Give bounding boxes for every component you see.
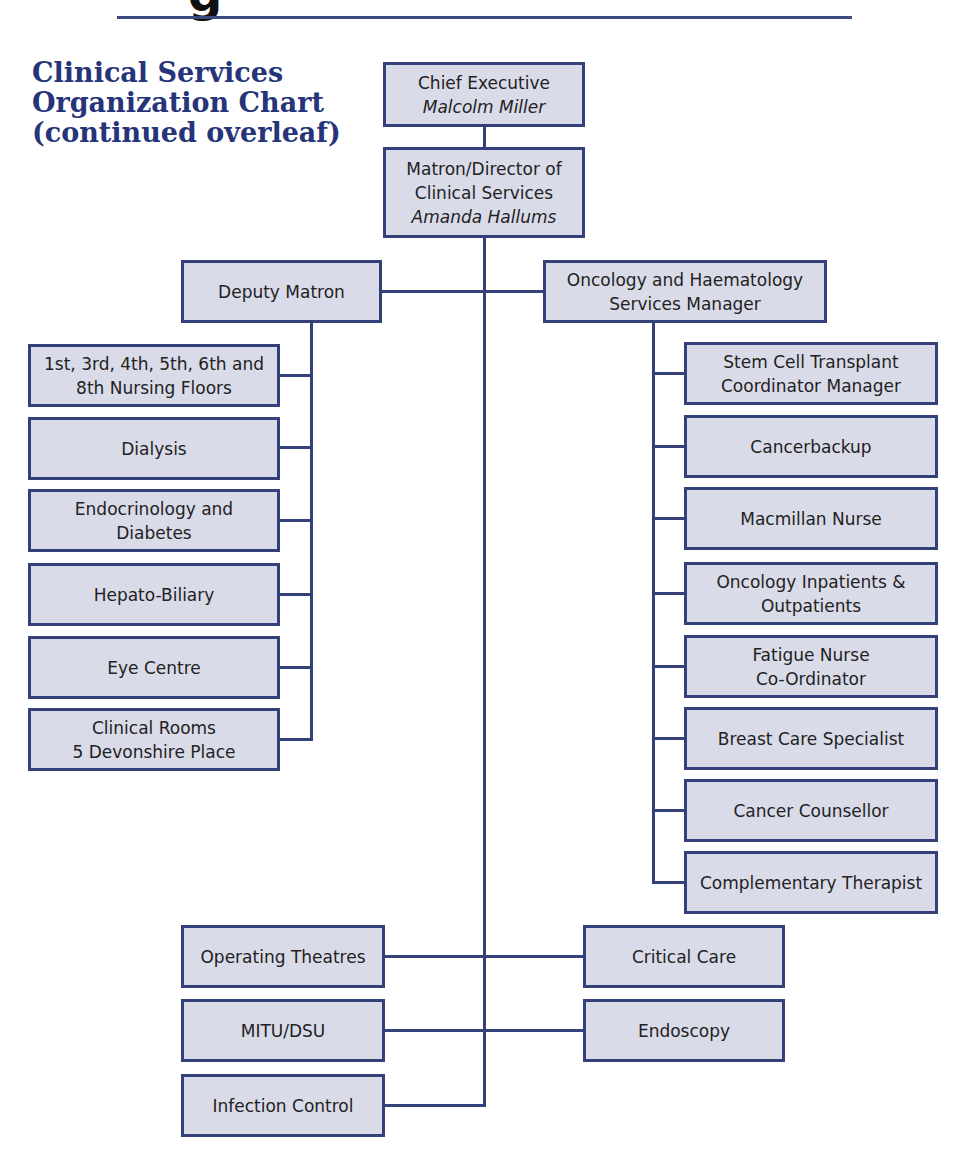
node-label: 1st, 3rd, 4th, 5th, 6th and: [44, 352, 264, 376]
node-oncology-patients: Oncology Inpatients & Outpatients: [684, 562, 938, 625]
header-rule: [117, 16, 852, 19]
connector-oncology-spine: [652, 322, 655, 884]
connector-deputy-spine: [310, 322, 313, 741]
node-role: Chief Executive: [418, 71, 550, 95]
connector-oncology-branch: [652, 881, 687, 884]
node-label: Breast Care Specialist: [718, 727, 904, 751]
node-complementary-therapist: Complementary Therapist: [684, 851, 938, 914]
connector-theatres-critical: [383, 955, 586, 958]
connector-deputy-branch: [278, 446, 313, 449]
node-label: Macmillan Nurse: [740, 507, 882, 531]
connector-oncology-branch: [652, 445, 687, 448]
connector-oncology-branch: [652, 665, 687, 668]
node-label: Diabetes: [116, 521, 191, 545]
node-macmillan: Macmillan Nurse: [684, 487, 938, 550]
node-label: Hepato-Biliary: [94, 583, 215, 607]
connector-deputy-branch: [278, 374, 313, 377]
node-matron: Matron/Director of Clinical Services Ama…: [383, 147, 585, 238]
node-label: Fatigue Nurse: [752, 643, 869, 667]
node-person: Amanda Hallums: [412, 205, 557, 229]
node-label: Deputy Matron: [218, 280, 345, 304]
node-oncology-manager: Oncology and Haematology Services Manage…: [543, 260, 827, 323]
connector-mitu-endoscopy: [383, 1029, 586, 1032]
node-label: Critical Care: [632, 945, 736, 969]
connector-oncology-branch: [652, 737, 687, 740]
node-label: 5 Devonshire Place: [72, 740, 235, 764]
node-fatigue-nurse: Fatigue Nurse Co-Ordinator: [684, 635, 938, 698]
node-label: Cancerbackup: [750, 435, 871, 459]
node-endocrinology: Endocrinology and Diabetes: [28, 489, 280, 552]
node-nursing-floors: 1st, 3rd, 4th, 5th, 6th and 8th Nursing …: [28, 344, 280, 407]
node-label: Complementary Therapist: [700, 871, 922, 895]
node-infection-control: Infection Control: [181, 1074, 385, 1137]
node-label: Services Manager: [609, 292, 761, 316]
node-cancerbackup: Cancerbackup: [684, 415, 938, 478]
connector-oncology-branch: [652, 809, 687, 812]
node-critical-care: Critical Care: [583, 925, 785, 988]
node-role: Matron/Director of: [406, 157, 561, 181]
connector-oncology-branch: [652, 517, 687, 520]
node-label: Eye Centre: [107, 656, 201, 680]
node-label: Clinical Rooms: [92, 716, 216, 740]
node-operating-theatres: Operating Theatres: [181, 925, 385, 988]
connector-deputy-oncology: [380, 290, 545, 293]
node-chief-executive: Chief Executive Malcolm Miller: [383, 62, 585, 127]
connector-main-spine: [483, 236, 486, 1107]
node-deputy-matron: Deputy Matron: [181, 260, 382, 323]
node-label: Co-Ordinator: [756, 667, 866, 691]
node-clinical-rooms: Clinical Rooms 5 Devonshire Place: [28, 708, 280, 771]
node-eye-centre: Eye Centre: [28, 636, 280, 699]
node-dialysis: Dialysis: [28, 417, 280, 480]
connector-deputy-branch: [278, 593, 313, 596]
node-cancer-counsellor: Cancer Counsellor: [684, 779, 938, 842]
node-label: Oncology and Haematology: [567, 268, 803, 292]
node-label: MITU/DSU: [241, 1019, 326, 1043]
connector-deputy-branch: [278, 519, 313, 522]
connector-deputy-branch: [278, 666, 313, 669]
connector-chief-matron: [483, 125, 486, 149]
node-label: Outpatients: [761, 594, 861, 618]
node-label: Operating Theatres: [200, 945, 365, 969]
connector-infection: [383, 1104, 486, 1107]
connector-oncology-branch: [652, 372, 687, 375]
node-hepato-biliary: Hepato-Biliary: [28, 563, 280, 626]
node-label: Infection Control: [213, 1094, 354, 1118]
node-label: Cancer Counsellor: [733, 799, 888, 823]
node-label: Endocrinology and: [75, 497, 233, 521]
connector-deputy-branch: [278, 738, 313, 741]
node-label: Coordinator Manager: [721, 374, 901, 398]
node-label: 8th Nursing Floors: [76, 376, 232, 400]
node-label: Dialysis: [121, 437, 186, 461]
node-stem-cell: Stem Cell Transplant Coordinator Manager: [684, 342, 938, 405]
node-person: Malcolm Miller: [423, 95, 546, 119]
node-label: Oncology Inpatients &: [716, 570, 905, 594]
node-mitu-dsu: MITU/DSU: [181, 999, 385, 1062]
page-title: Clinical Services Organization Chart (co…: [32, 58, 342, 148]
node-breast-care: Breast Care Specialist: [684, 707, 938, 770]
connector-oncology-branch: [652, 592, 687, 595]
node-label: Endoscopy: [638, 1019, 730, 1043]
node-role: Clinical Services: [415, 181, 553, 205]
node-endoscopy: Endoscopy: [583, 999, 785, 1062]
node-label: Stem Cell Transplant: [723, 350, 898, 374]
